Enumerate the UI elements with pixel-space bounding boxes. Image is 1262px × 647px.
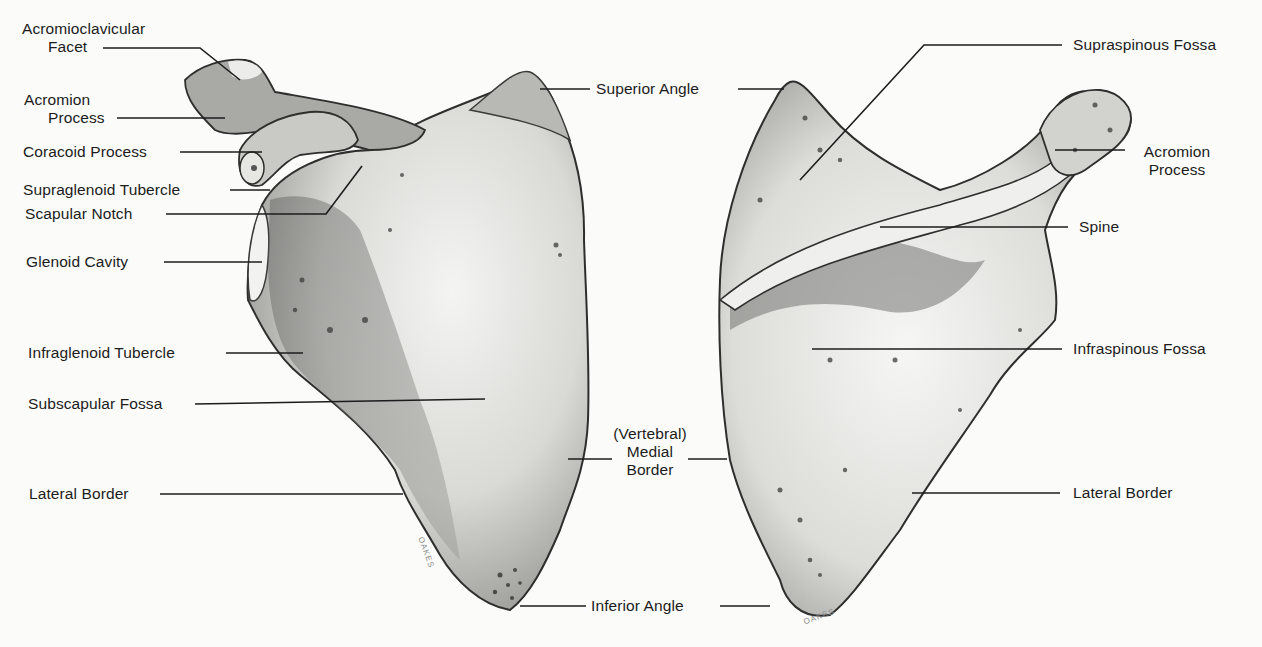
label-acromion-process-left: Acromion Process xyxy=(24,91,105,127)
label-scapular-notch: Scapular Notch xyxy=(25,205,132,223)
label-infraspinous-fossa: Infraspinous Fossa xyxy=(1073,340,1206,358)
label-subscapular-fossa: Subscapular Fossa xyxy=(28,395,162,413)
label-superior-angle: Superior Angle xyxy=(596,80,699,98)
anterior-scapula xyxy=(185,60,589,610)
label-spine: Spine xyxy=(1079,218,1119,236)
label-infraglenoid-tubercle: Infraglenoid Tubercle xyxy=(28,344,175,362)
label-coracoid-process: Coracoid Process xyxy=(23,143,147,161)
label-glenoid-cavity: Glenoid Cavity xyxy=(26,253,128,271)
label-lateral-border-left: Lateral Border xyxy=(29,485,129,503)
label-supraglenoid-tubercle: Supraglenoid Tubercle xyxy=(23,181,180,199)
scapula-diagram: Acromioclavicular Facet Acromion Process… xyxy=(0,0,1262,647)
label-supraspinous-fossa: Supraspinous Fossa xyxy=(1073,36,1216,54)
label-acromioclavicular-facet: Acromioclavicular Facet xyxy=(22,20,182,56)
label-acromion-process-right: Acromion Process xyxy=(1132,143,1222,179)
label-inferior-angle: Inferior Angle xyxy=(591,597,684,615)
label-medial-border: (Vertebral) Medial Border xyxy=(598,425,702,479)
label-lateral-border-right: Lateral Border xyxy=(1073,484,1173,502)
